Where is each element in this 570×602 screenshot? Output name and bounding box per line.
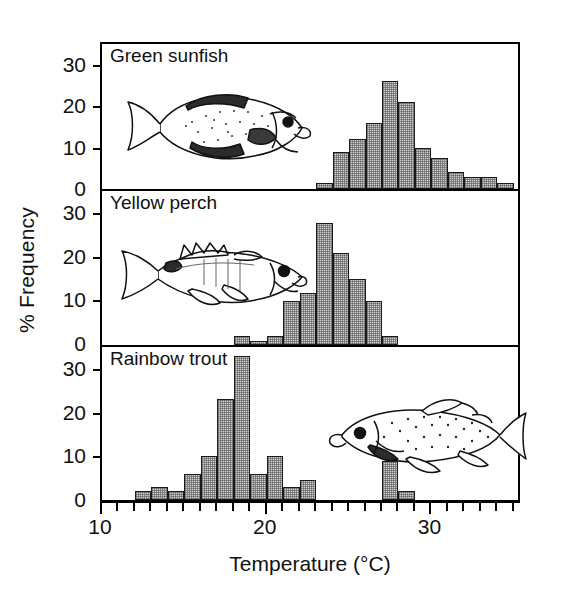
histogram-bar [398,491,414,500]
y-tick-30 [93,213,102,215]
fish-temperature-figure: % Frequency 102030 Temperature (°C) Gree… [0,0,570,602]
y-axis-label: 30 [40,358,86,379]
y-axis-label: 30 [40,202,86,223]
x-tick-25 [347,502,349,511]
x-tick-31 [446,502,448,511]
histogram-bar [316,183,332,189]
x-tick-28 [396,502,398,511]
x-tick-11 [116,502,118,511]
x-tick-10 [100,502,102,514]
histogram-bar [234,356,250,500]
histogram-bar [300,480,316,500]
y-tick-20 [93,257,102,259]
histogram-bar [431,158,447,189]
histogram-bar [201,456,217,500]
y-axis-label: 0 [40,489,86,510]
histogram-bar [267,336,283,345]
x-tick-19 [248,502,250,511]
panel-title-yellow-perch: Yellow perch [110,192,217,214]
histogram-bar [398,102,414,189]
x-tick-17 [215,502,217,511]
x-tick-22 [298,502,300,511]
histogram-yellow-perch [102,191,518,345]
histogram-bar [234,336,250,345]
x-tick-29 [413,502,415,511]
x-tick-20 [265,502,267,514]
y-tick-20 [93,106,102,108]
panel-green-sunfish: Green sunfish0102030 [100,42,520,190]
histogram-bar [151,487,167,500]
y-axis-label: 10 [40,137,86,158]
histogram-bar [168,491,184,500]
y-axis-label: 30 [40,54,86,75]
histogram-bar [464,177,480,189]
x-tick-24 [331,502,333,511]
y-axis-title: % Frequency [15,165,39,375]
histogram-bar [481,177,497,189]
histogram-bar [333,253,349,345]
histogram-bar [366,301,382,345]
x-tick-16 [199,502,201,511]
y-axis-label: 0 [40,178,86,199]
histogram-bar [366,123,382,189]
x-tick-30 [429,502,431,514]
x-tick-27 [380,502,382,511]
y-axis-label: 10 [40,289,86,310]
x-axis-title: Temperature (°C) [100,552,520,576]
y-axis-label: 0 [40,333,86,354]
panel-title-green-sunfish: Green sunfish [110,45,228,67]
x-tick-23 [314,502,316,511]
x-tick-33 [479,502,481,511]
y-tick-20 [93,413,102,415]
y-axis-label: 20 [40,402,86,423]
y-tick-30 [93,65,102,67]
histogram-bar [135,491,151,500]
histogram-bar [250,341,266,345]
y-tick-10 [93,300,102,302]
x-axis-label: 20 [245,515,285,539]
histogram-bar [382,81,398,189]
x-tick-34 [495,502,497,511]
histogram-bar [300,293,316,345]
histogram-bar [415,148,431,189]
histogram-bar [283,487,299,500]
x-tick-18 [232,502,234,511]
x-axis-label: 30 [409,515,449,539]
histogram-bar [333,152,349,189]
y-tick-30 [93,369,102,371]
y-axis-label: 20 [40,95,86,116]
y-tick-10 [93,148,102,150]
y-axis-label: 20 [40,246,86,267]
panel-title-rainbow-trout: Rainbow trout [110,348,227,370]
histogram-bar [497,183,513,189]
histogram-bar [267,456,283,500]
y-tick-10 [93,456,102,458]
x-axis-line: 102030 [100,502,520,503]
histogram-bar [217,399,233,500]
x-tick-26 [364,502,366,511]
panel-rainbow-trout: Rainbow trout0102030 [100,346,520,502]
histogram-bar [250,474,266,500]
histogram-bar [382,461,398,500]
x-axis-label: 10 [80,515,120,539]
x-tick-12 [133,502,135,511]
y-axis-label: 10 [40,445,86,466]
panel-yellow-perch: Yellow perch0102030 [100,190,520,346]
x-tick-35 [512,502,514,511]
histogram-bar [349,279,365,345]
x-tick-14 [166,502,168,511]
histogram-bar [283,301,299,345]
histogram-bar [382,336,398,345]
x-tick-13 [149,502,151,511]
x-tick-15 [182,502,184,511]
x-tick-32 [462,502,464,511]
histogram-bar [316,223,332,345]
histogram-bar [349,139,365,189]
histogram-bar [184,474,200,500]
x-tick-21 [281,502,283,511]
histogram-bar [448,172,464,189]
